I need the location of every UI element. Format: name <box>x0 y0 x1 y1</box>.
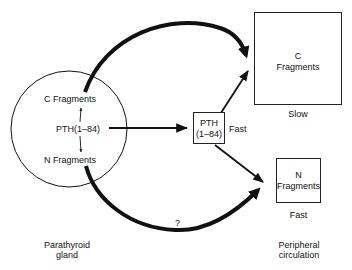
caption-line: gland <box>36 250 98 260</box>
intact-pth-rate: Fast <box>229 124 247 134</box>
c-fragments-label: C Fragments <box>44 94 96 104</box>
n-pool-rate: Fast <box>276 210 321 220</box>
intact-pth-line2: (1–84) <box>194 129 224 139</box>
pth-intact-label: PTH(1–84) <box>56 124 100 134</box>
arrow-n-fragments-to-n-pool <box>86 166 258 230</box>
n-fragments-pool-box: N Fragments <box>276 158 321 203</box>
n-pool-line1: N <box>277 170 320 180</box>
arrow-pth-to-n-fragments <box>80 136 81 152</box>
c-pool-line2: Fragments <box>255 62 341 72</box>
n-pool-line2: Fragments <box>277 181 320 191</box>
c-pool-rate: Slow <box>254 109 342 119</box>
arrow-pth-to-c-pool <box>219 71 248 116</box>
caption-line: Peripheral <box>268 240 330 250</box>
c-pool-line1: C <box>255 51 341 61</box>
unknown-path-label: ? <box>175 218 180 228</box>
intact-pth-box: PTH (1–84) <box>193 112 225 144</box>
parathyroid-gland-caption: Parathyroid gland <box>36 240 98 260</box>
arrow-pth-to-c-fragments <box>80 108 81 122</box>
arrow-c-fragments-to-c-pool <box>85 23 246 92</box>
c-fragments-pool-box: C Fragments <box>254 12 342 105</box>
intact-pth-line1: PTH <box>194 118 224 128</box>
caption-line: circulation <box>268 250 330 260</box>
arrow-pth-to-n-pool <box>215 145 263 182</box>
caption-line: Parathyroid <box>36 240 98 250</box>
n-fragments-label: N Fragments <box>44 155 96 165</box>
peripheral-circulation-caption: Peripheral circulation <box>268 240 330 260</box>
